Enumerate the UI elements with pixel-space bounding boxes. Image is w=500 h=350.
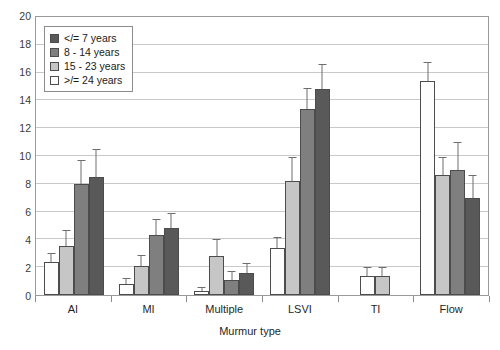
y-axis-tick-label: 6 [5,207,31,217]
bar-slot [375,17,390,295]
bar-slot [270,17,285,295]
legend-item[interactable]: >/= 24 years [50,73,125,87]
bar-group [413,17,488,295]
x-axis-tick [35,296,36,302]
x-axis-tick [262,296,263,302]
bar[interactable] [59,246,74,295]
legend: </= 7 years8 - 14 years15 - 23 years>/= … [44,26,133,92]
legend-swatch-icon [50,62,59,71]
bar[interactable] [209,256,224,295]
error-bar [427,62,428,81]
bar-group [337,17,412,295]
bars-row [337,17,412,295]
error-bar [231,271,232,279]
bar-slot [209,17,224,295]
y-axis-tick-label: 10 [5,151,31,161]
bar-slot [450,17,465,295]
legend-item[interactable]: </= 7 years [50,31,125,45]
y-axis-tick-label: 8 [5,179,31,189]
bar-slot [315,17,330,295]
error-bar [96,149,97,177]
bar[interactable] [435,175,450,295]
y-axis-tick-label: 20 [5,11,31,21]
y-axis-tick-label: 14 [5,95,31,105]
error-bar [277,237,278,248]
bar[interactable] [300,109,315,295]
bar-slot [435,17,450,295]
y-axis-tick-label: 16 [5,67,31,77]
bar[interactable] [285,181,300,295]
legend-label: 8 - 14 years [64,46,119,58]
error-bar [141,255,142,266]
legend-item[interactable]: 8 - 14 years [50,45,125,59]
bar-slot [149,17,164,295]
x-axis-tick [186,296,187,302]
x-axis-tick-label: MI [111,303,187,315]
bar[interactable] [224,280,239,295]
bar-slot [465,17,480,295]
bar[interactable] [360,276,375,295]
error-bar [307,88,308,109]
error-bar [457,142,458,170]
error-bar [382,267,383,275]
x-axis-tick-label: AI [35,303,111,315]
legend-swatch-icon [50,34,59,43]
error-bar [126,278,127,284]
bar-slot [285,17,300,295]
bar[interactable] [44,262,59,295]
legend-label: 15 - 23 years [64,60,125,72]
x-axis-tick [111,296,112,302]
error-bar [201,287,202,291]
error-bar [246,263,247,273]
error-bar [216,239,217,256]
error-bar [322,64,323,89]
bar[interactable] [375,276,390,295]
x-axis-tick-label: LSVI [262,303,338,315]
bars-row [187,17,262,295]
y-axis-tick-labels: 20181614121086420 [0,0,31,350]
bars-row [262,17,337,295]
error-bar [81,160,82,184]
bar[interactable] [239,273,254,295]
bar[interactable] [450,170,465,295]
bar-chart: 20181614121086420 AIMIMultipleLSVITIFlow… [0,0,500,350]
error-bar [171,213,172,228]
bar-slot [194,17,209,295]
bar[interactable] [164,228,179,295]
x-axis-tick [338,296,339,302]
bar[interactable] [315,89,330,295]
x-axis-tick [489,296,490,302]
bar[interactable] [194,291,209,295]
bar-slot [420,17,435,295]
error-bar [156,219,157,236]
y-axis-tick-label: 0 [5,291,31,301]
legend-label: </= 7 years [64,32,117,44]
x-axis-tick [413,296,414,302]
legend-swatch-icon [50,76,59,85]
x-axis-tick-label: TI [338,303,414,315]
legend-swatch-icon [50,48,59,57]
bar-slot [300,17,315,295]
bar[interactable] [119,284,134,295]
legend-label: >/= 24 years [64,74,122,86]
bar[interactable] [270,248,285,295]
y-axis-tick-label: 2 [5,263,31,273]
bar[interactable] [134,266,149,295]
y-axis-tick-label: 4 [5,235,31,245]
bar[interactable] [74,184,89,295]
bar[interactable] [465,198,480,295]
legend-item[interactable]: 15 - 23 years [50,59,125,73]
x-axis-tick-labels: AIMIMultipleLSVITIFlow [35,303,489,315]
error-bar [472,175,473,197]
bar[interactable] [89,177,104,295]
y-axis-tick-label: 18 [5,39,31,49]
bar[interactable] [149,235,164,295]
bar[interactable] [420,81,435,295]
y-axis-tick-label: 12 [5,123,31,133]
error-bar [367,267,368,275]
bar-slot [134,17,149,295]
bar-group [187,17,262,295]
x-axis-ticks [35,296,489,302]
bar-group [262,17,337,295]
bar-slot [164,17,179,295]
